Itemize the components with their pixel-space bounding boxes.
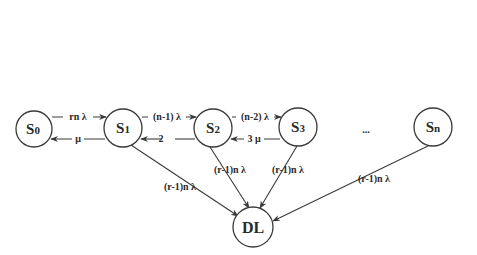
edge-s2-dl: (r-1)n λ [210,147,249,208]
node-s3-sub: 3 [299,122,305,134]
edge-label-s1-s0: μ [75,133,81,144]
state-transition-diagram: rn λ μ (n-1) λ 2 (n-2) λ 3 μ (r-1)n λ (r… [0,0,477,255]
edge-s1-s0: μ [51,133,105,144]
edge-label-s2-s3: (n-2) λ [241,111,269,123]
edge-label-s2-s1: 2 [159,133,164,144]
edge-s2-s1: 2 [141,133,195,144]
edge-s1-dl: (r-1)n λ [131,145,238,216]
node-dl-label: DL [242,219,264,236]
edge-sn-dl: (r-1)n λ [273,146,428,221]
node-s1-label: S [116,120,124,136]
node-sn: Sn [414,108,452,146]
node-s1-sub: 1 [124,123,130,135]
node-s2-label: S [206,120,214,136]
node-sn-sub: n [434,122,440,134]
node-s0-sub: 0 [34,124,40,136]
edge-label-s3-s2: 3 μ [247,133,261,144]
edge-label-s2-dl: (r-1)n λ [214,164,246,176]
svg-text:S1: S1 [116,120,130,136]
edge-s3-s2: 3 μ [231,133,280,144]
edge-label-s1-s2: (n-1) λ [153,111,181,123]
edge-label-s3-dl: (r-1)n λ [272,164,304,176]
svg-text:Sn: Sn [426,119,440,135]
node-sn-label: S [426,119,434,135]
node-s2: S2 [194,109,232,147]
edge-label-s1-dl: (r-1)n λ [164,181,196,193]
node-s3-label: S [291,119,299,135]
edge-s2-s3: (n-2) λ [232,111,281,123]
node-s1: S1 [104,109,142,147]
edge-label-s0-s1: rn λ [69,111,87,122]
node-s0: S0 [16,111,52,147]
svg-text:S0: S0 [26,121,40,137]
svg-text:S2: S2 [206,120,220,136]
node-dl: DL [233,207,273,247]
ellipsis: ... [362,124,370,135]
edge-s1-s2: (n-1) λ [142,111,196,123]
edge-s0-s1: rn λ [52,111,106,122]
node-s0-label: S [26,121,34,137]
svg-text:S3: S3 [291,119,305,135]
node-s3: S3 [279,108,317,146]
node-s2-sub: 2 [214,123,220,135]
edge-s3-dl: (r-1)n λ [260,146,304,208]
edge-label-sn-dl: (r-1)n λ [358,173,390,185]
